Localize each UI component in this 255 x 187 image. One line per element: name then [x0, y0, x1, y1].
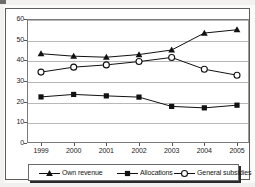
x-tick-label: 2000	[66, 147, 81, 155]
legend-item[interactable]: General subsidies	[174, 168, 251, 178]
y-tick-label: 40	[16, 56, 24, 63]
x-tick-label: 2005	[229, 147, 244, 155]
data-point-marker	[38, 69, 44, 75]
x-tick-label: 2001	[99, 147, 114, 155]
chart-figure: 0102030405060 19992000200120022003200420…	[0, 0, 255, 187]
data-point-marker	[201, 66, 207, 72]
data-point-marker	[104, 93, 109, 98]
data-point-marker	[168, 47, 175, 53]
data-point-marker	[71, 64, 77, 70]
data-point-marker	[136, 59, 142, 65]
y-tick-label: 10	[16, 118, 24, 125]
scan-corner-blot	[0, 0, 6, 4]
x-tick-label: 2004	[197, 147, 212, 155]
data-point-marker	[136, 95, 141, 100]
scan-edge-left	[0, 0, 4, 187]
chart-legend: Own revenueAllocationsGeneral subsidies	[28, 164, 239, 181]
legend-label: General subsidies	[197, 169, 251, 177]
y-tick-label: 50	[16, 36, 24, 43]
data-point-marker	[38, 94, 43, 99]
x-tick-mark	[106, 143, 107, 146]
x-tick-label: 1999	[33, 147, 48, 155]
legend-label: Own revenue	[62, 169, 103, 177]
x-tick-mark	[41, 143, 42, 146]
legend-shadow	[30, 181, 241, 183]
scan-edge-top	[0, 0, 255, 5]
x-tick-mark	[139, 143, 140, 146]
data-point-marker	[71, 92, 76, 97]
x-tick-mark	[74, 143, 75, 146]
legend-label: Allocations	[140, 169, 173, 177]
data-point-marker	[202, 105, 207, 110]
series-layer	[27, 19, 249, 143]
x-axis: 1999200020012002200320042005	[27, 147, 249, 159]
data-point-marker	[234, 103, 239, 108]
y-tick-mark	[24, 143, 27, 144]
scan-edge-bottom	[0, 183, 255, 187]
data-point-marker	[234, 26, 241, 32]
x-tick-label: 2003	[164, 147, 179, 155]
legend-item[interactable]: Allocations	[117, 168, 173, 178]
y-axis: 0102030405060	[6, 19, 24, 143]
y-tick-label: 60	[16, 15, 24, 22]
legend-marker-filled-triangle-icon	[39, 169, 60, 178]
y-tick-label: 20	[16, 98, 24, 105]
x-tick-mark	[204, 143, 205, 146]
data-point-marker	[234, 72, 240, 78]
data-point-marker	[103, 62, 109, 68]
data-point-marker	[169, 104, 174, 109]
data-point-marker	[169, 54, 175, 60]
data-point-marker	[38, 50, 45, 56]
legend-marker-open-circle-icon	[174, 169, 195, 178]
legend-item[interactable]: Own revenue	[39, 168, 103, 178]
chart-frame: 0102030405060 19992000200120022003200420…	[5, 8, 250, 180]
legend-marker-filled-square-icon	[117, 169, 138, 178]
x-tick-label: 2002	[131, 147, 146, 155]
y-tick-label: 30	[16, 77, 24, 84]
x-tick-mark	[237, 143, 238, 146]
x-tick-mark	[172, 143, 173, 146]
